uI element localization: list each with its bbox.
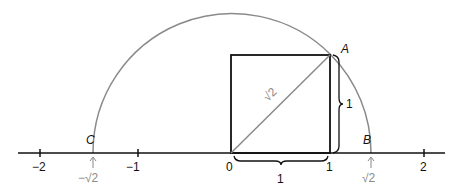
point-label-a: A <box>340 42 349 56</box>
tick-label-1: 1 <box>326 160 333 174</box>
tick-label-neg2: −2 <box>32 160 46 174</box>
sqrt2-construction-diagram: −2 −1 0 1 2 1 1 √2 A B C √2 −√2 <box>0 0 451 192</box>
right-side-brace <box>333 55 343 153</box>
point-label-c: C <box>86 133 95 147</box>
tick-label-2: 2 <box>420 160 427 174</box>
right-side-label: 1 <box>346 97 353 111</box>
arrow-up-icon <box>368 157 374 168</box>
tick-label-0: 0 <box>226 160 233 174</box>
arrow-up-icon <box>90 157 96 168</box>
tick-label-neg1: −1 <box>126 160 140 174</box>
point-label-b: B <box>363 133 371 147</box>
bottom-side-brace <box>234 156 328 165</box>
neg-sqrt2-label: −√2 <box>78 171 99 185</box>
square-diagonal <box>231 55 330 153</box>
pos-sqrt2-label: √2 <box>362 171 376 185</box>
diagonal-label: √2 <box>260 85 280 105</box>
bottom-side-label: 1 <box>277 172 284 186</box>
